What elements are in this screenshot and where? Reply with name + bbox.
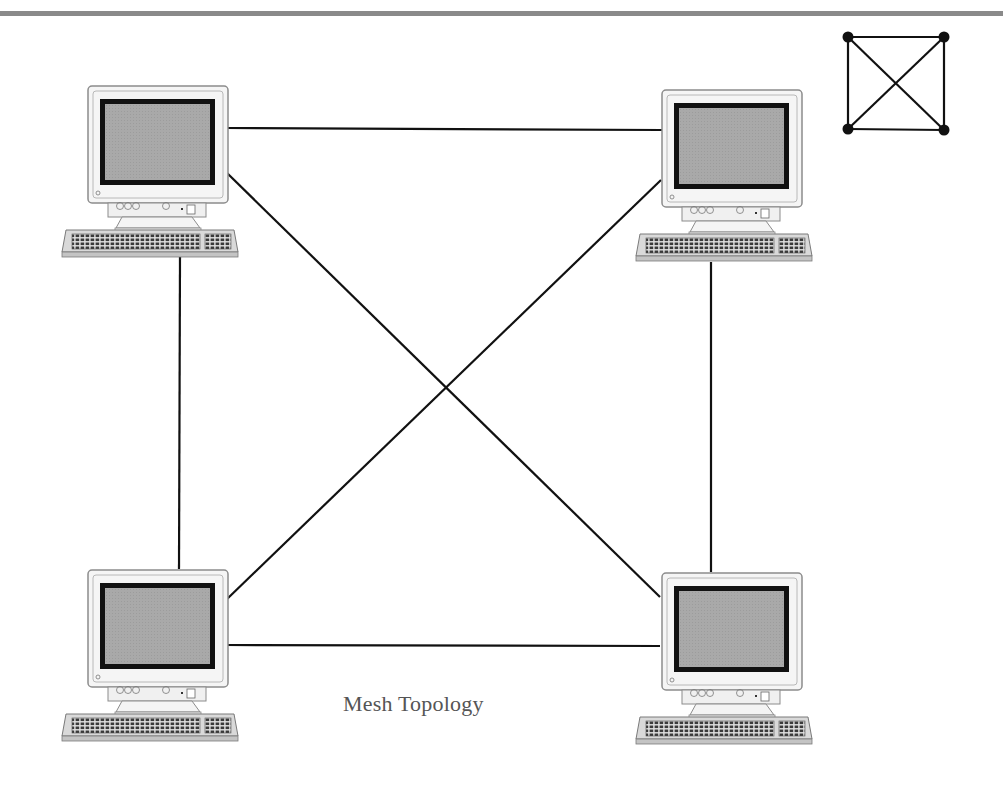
link-top (227, 128, 662, 130)
computer-node-bottom-right (634, 573, 814, 745)
diagram-caption: Mesh Topology (343, 691, 484, 717)
computer-node-top-left (60, 86, 240, 258)
link-bottom (226, 645, 660, 646)
computer-node-top-right (634, 90, 814, 262)
link-diagonal-tr-bl (226, 180, 661, 600)
link-left (179, 257, 180, 569)
legend-mesh-icon-region (838, 28, 954, 140)
mesh-links (179, 128, 711, 646)
link-diagonal-tl-br (227, 173, 660, 597)
computer-node-bottom-left (60, 570, 240, 742)
